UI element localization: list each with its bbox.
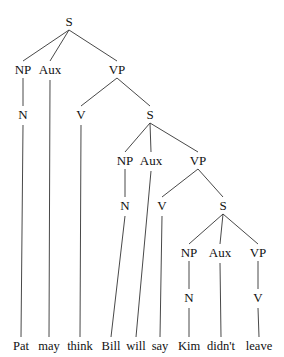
tree-edge	[198, 169, 223, 197]
tree-edge	[117, 78, 150, 106]
tree-edge	[125, 123, 150, 152]
terminal-word: leave	[246, 339, 273, 353]
terminal-edge	[160, 216, 162, 337]
tree-edge	[23, 30, 69, 61]
terminal-edge	[258, 308, 259, 337]
tree-edge	[69, 30, 117, 61]
node-label-n: N	[18, 107, 28, 122]
tree-edge	[189, 214, 223, 244]
terminal-words: PatmaythinkBillwillsayKimdidn'tleave	[13, 339, 273, 353]
terminal-word: Pat	[13, 339, 30, 353]
terminal-edge	[136, 171, 151, 337]
node-label-v: V	[76, 107, 86, 122]
terminal-word: Kim	[178, 339, 201, 353]
node-label-n: N	[184, 290, 194, 305]
tree-edge	[223, 214, 258, 244]
terminal-edge	[220, 263, 221, 337]
node-label-np: NP	[181, 245, 198, 260]
syntax-tree-diagram: SNPAuxVPNVSNPAuxVPNVSNPAuxVPNV Patmaythi…	[0, 0, 284, 357]
node-label-np: NP	[15, 62, 32, 77]
tree-edge	[50, 30, 69, 61]
terminal-word: may	[38, 339, 60, 353]
terminal-word: didn't	[207, 339, 235, 353]
terminal-edge	[111, 216, 125, 337]
node-label-vp: VP	[190, 153, 207, 168]
node-label-np: NP	[117, 153, 134, 168]
terminal-edge	[21, 125, 23, 337]
terminal-word: Bill	[102, 339, 121, 353]
node-label-v: V	[157, 198, 167, 213]
tree-edge	[162, 169, 198, 197]
terminal-word: think	[67, 339, 93, 353]
node-label-vp: VP	[250, 245, 267, 260]
tree-edge	[220, 214, 223, 244]
node-label-s: S	[146, 107, 153, 122]
node-label-v: V	[253, 290, 263, 305]
node-label-aux: Aux	[209, 245, 232, 260]
terminal-word: will	[126, 339, 146, 353]
terminal-edge	[49, 80, 50, 337]
tree-edge	[150, 123, 151, 152]
node-label-s: S	[65, 14, 72, 29]
tree-edge	[81, 78, 117, 106]
node-label-aux: Aux	[39, 62, 62, 77]
node-label-vp: VP	[109, 62, 126, 77]
terminal-edge	[80, 125, 81, 337]
node-label-aux: Aux	[140, 153, 163, 168]
node-label-s: S	[219, 198, 226, 213]
tree-edge	[150, 123, 198, 152]
node-label-n: N	[120, 198, 130, 213]
terminal-word: say	[152, 339, 169, 353]
